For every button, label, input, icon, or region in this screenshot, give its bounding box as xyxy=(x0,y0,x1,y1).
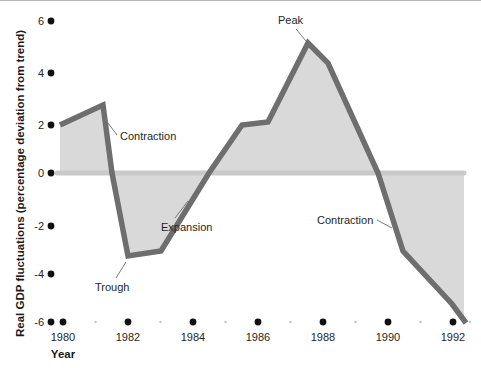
y-tick-label: 2 xyxy=(38,119,44,131)
x-tick-label: 1986 xyxy=(246,331,270,343)
x-axis-title: Year xyxy=(51,348,76,360)
x-tick-label: 1992 xyxy=(441,331,465,343)
x-axis-tick-labels: 1980 1982 1984 1986 1988 1990 1992 xyxy=(51,331,465,343)
y-tick-label: -6 xyxy=(34,316,44,328)
x-tick-dot xyxy=(385,319,392,326)
x-tick-dot xyxy=(125,319,132,326)
annotation-peak: Peak xyxy=(278,14,306,41)
x-tick-label: 1984 xyxy=(181,331,205,343)
x-minor-dot xyxy=(159,321,162,324)
y-tick-dot xyxy=(48,170,55,177)
x-tick-dot xyxy=(450,319,457,326)
annotation-label: Trough xyxy=(95,281,129,293)
y-tick-dot xyxy=(48,271,55,278)
annotation-contraction-left: Contraction xyxy=(105,119,176,142)
x-tick-dot xyxy=(320,319,327,326)
annotation-trough: Trough xyxy=(95,262,129,293)
y-tick-dot xyxy=(48,18,55,25)
x-tick-label: 1982 xyxy=(116,331,140,343)
area-fill-positive-2 xyxy=(209,43,378,173)
y-axis-title: Real GDP fluctuations (percentage deviat… xyxy=(14,30,26,337)
x-tick-label: 1990 xyxy=(376,331,400,343)
y-tick-dot xyxy=(48,223,55,230)
y-tick-label: 4 xyxy=(38,67,44,79)
leader-line xyxy=(377,220,392,228)
y-axis-tick-labels: 6 4 2 0 -2 -4 -6 xyxy=(34,15,44,328)
x-tick-dot xyxy=(255,319,262,326)
x-tick-dot xyxy=(60,319,67,326)
y-tick-label: 6 xyxy=(38,15,44,27)
y-tick-label: -4 xyxy=(34,268,44,280)
y-tick-label: -2 xyxy=(34,220,44,232)
y-axis-tick-dots xyxy=(48,18,55,326)
x-tick-dot xyxy=(190,319,197,326)
y-tick-dot xyxy=(48,319,55,326)
x-minor-dot xyxy=(224,321,227,324)
x-tick-label: 1980 xyxy=(51,331,75,343)
gdp-fluctuations-chart: Real GDP fluctuations (percentage deviat… xyxy=(0,1,481,368)
x-axis-major-dots xyxy=(60,319,457,326)
leader-line xyxy=(116,262,126,278)
y-tick-dot xyxy=(48,70,55,77)
annotation-label: Peak xyxy=(278,14,304,26)
x-tick-label: 1988 xyxy=(311,331,335,343)
x-minor-dot xyxy=(419,321,422,324)
annotation-label: Expansion xyxy=(161,221,212,233)
chart-figure: Real GDP fluctuations (percentage deviat… xyxy=(0,0,481,368)
y-tick-dot xyxy=(48,122,55,129)
annotation-contraction-right: Contraction xyxy=(317,214,392,228)
leader-line xyxy=(296,29,306,41)
x-minor-dot xyxy=(94,321,97,324)
x-minor-dot xyxy=(354,321,357,324)
annotation-label: Contraction xyxy=(317,214,373,226)
x-minor-dot xyxy=(469,321,472,324)
y-tick-label: 0 xyxy=(38,167,44,179)
annotation-label: Contraction xyxy=(120,130,176,142)
x-minor-dot xyxy=(289,321,292,324)
x-axis-minor-dots xyxy=(94,321,471,324)
